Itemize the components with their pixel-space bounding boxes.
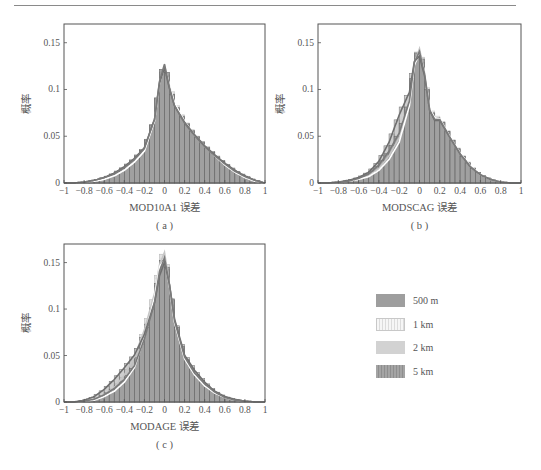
x-tick-label: −0.6: [96, 405, 113, 415]
y-tick-label: 0.15: [43, 38, 60, 48]
x-tick-label: 0.6: [219, 405, 231, 415]
y-tick-label: 0.15: [43, 258, 60, 268]
figure-canvas: −1−0.8−0.6−0.4−0.200.20.40.60.8100.050.1…: [0, 0, 541, 470]
x-tick-label: 0.6: [219, 186, 231, 196]
y-tick-label: 0.1: [48, 304, 60, 314]
x-tick-label: 0.8: [239, 186, 251, 196]
x-tick-label: 0.8: [239, 405, 251, 415]
x-tick-label: −0.4: [116, 405, 133, 415]
legend-swatch-1km: [376, 318, 405, 331]
x-tick-label: 0.6: [474, 186, 486, 196]
x-tick-label: 0.4: [199, 405, 211, 415]
y-tick-label: 0: [309, 178, 314, 188]
y-axis-title: 概率: [20, 313, 32, 333]
x-tick-label: −1: [59, 186, 69, 196]
panel-label: ( c ): [156, 439, 173, 451]
legend-label: 1 km: [413, 319, 433, 330]
chart-panel-c: −1−0.8−0.6−0.4−0.200.20.40.60.8100.050.1…: [20, 244, 268, 451]
x-tick-label: −1: [59, 405, 69, 415]
x-tick-label: −0.6: [96, 186, 113, 196]
x-tick-label: 0.2: [434, 186, 446, 196]
y-tick-label: 0.1: [48, 84, 60, 94]
legend-label: 5 km: [413, 366, 433, 377]
x-axis-title: MODSCAG 误差: [382, 201, 457, 213]
x-tick-label: 0: [162, 405, 167, 415]
y-tick-label: 0.1: [302, 84, 314, 94]
x-tick-label: −0.4: [116, 186, 133, 196]
legend-label: 2 km: [413, 342, 433, 353]
x-tick-label: 0.4: [199, 186, 211, 196]
y-tick-label: 0: [55, 397, 60, 407]
x-tick-label: −0.4: [370, 186, 387, 196]
x-axis-title: MOD10A1 误差: [129, 201, 199, 213]
legend-swatch-500m: [376, 294, 405, 307]
x-tick-label: 1: [263, 186, 268, 196]
y-tick-label: 0.15: [297, 38, 314, 48]
panel-label: ( a ): [156, 220, 173, 232]
series-500m: [79, 260, 250, 402]
x-tick-label: −0.2: [136, 186, 153, 196]
legend-label: 500 m: [413, 295, 438, 306]
series-500m: [333, 53, 506, 183]
x-tick-label: −0.8: [75, 186, 92, 196]
y-axis-title: 概率: [274, 94, 286, 114]
x-tick-label: −0.2: [136, 405, 153, 415]
series-500m: [79, 69, 265, 183]
chart-panel-a: −1−0.8−0.6−0.4−0.200.20.40.60.8100.050.1…: [20, 24, 268, 232]
legend-item-500m: 500 m: [376, 289, 438, 313]
y-tick-label: 0.05: [43, 351, 60, 361]
x-axis-title: MODAGE 误差: [130, 420, 199, 432]
legend-item-5km: 5 km: [376, 360, 438, 384]
x-tick-label: 0.4: [454, 186, 466, 196]
y-axis-title: 概率: [20, 94, 32, 114]
x-tick-label: −1: [313, 186, 323, 196]
y-tick-label: 0: [55, 178, 60, 188]
legend-swatch-5km: [376, 365, 405, 378]
panel-label: ( b ): [411, 220, 429, 232]
x-tick-label: 1: [519, 186, 524, 196]
legend-item-2km: 2 km: [376, 336, 438, 360]
x-tick-label: 0: [162, 186, 167, 196]
legend-item-1km: 1 km: [376, 313, 438, 337]
y-tick-label: 0.05: [43, 131, 60, 141]
x-tick-label: −0.8: [75, 405, 92, 415]
x-tick-label: 0.8: [495, 186, 507, 196]
chart-panel-b: −1−0.8−0.6−0.4−0.200.20.40.60.8100.050.1…: [274, 24, 524, 232]
x-tick-label: −0.6: [350, 186, 367, 196]
y-tick-label: 0.05: [297, 131, 314, 141]
legend-swatch-2km: [376, 341, 405, 354]
x-tick-label: −0.2: [391, 186, 408, 196]
x-tick-label: 0.2: [179, 186, 191, 196]
x-tick-label: 0.2: [179, 405, 191, 415]
x-tick-label: 1: [263, 405, 268, 415]
x-tick-label: 0: [417, 186, 422, 196]
legend: 500 m 1 km 2 km 5 km: [376, 289, 438, 383]
x-tick-label: −0.8: [330, 186, 347, 196]
